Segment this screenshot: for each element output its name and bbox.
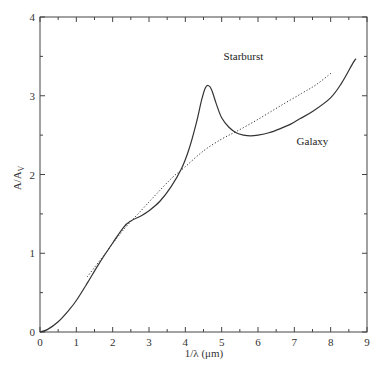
y-axis-title: A/AV [11,165,26,190]
label-galaxy: Galaxy [297,135,329,147]
axis-ticks [40,17,367,332]
series-galaxy-line [40,59,356,332]
y-tick-labels: 01234 [30,11,36,338]
x-axis-title: 1/λ (μm) [185,347,224,360]
y-tick-label: 3 [30,90,36,102]
extinction-curve-chart: 0123456789 01234 StarburstGalaxy 1/λ (μm… [0,0,385,378]
x-tick-label: 0 [37,336,43,348]
plot-frame [40,17,367,332]
data-series [40,59,356,332]
y-tick-label: 0 [30,326,36,338]
y-tick-label: 1 [30,247,36,259]
x-tick-label: 9 [364,336,370,348]
x-tick-label: 2 [110,336,116,348]
x-tick-label: 3 [146,336,152,348]
x-tick-label: 7 [292,336,298,348]
plot-border [40,17,367,332]
x-tick-label: 6 [255,336,261,348]
x-tick-label: 1 [74,336,80,348]
curve-annotations: StarburstGalaxy [224,50,329,147]
y-tick-label: 2 [30,169,36,181]
y-tick-label: 4 [30,11,36,23]
label-starburst: Starburst [224,50,264,62]
series-starburst-line [87,73,331,277]
x-tick-label: 8 [328,336,334,348]
